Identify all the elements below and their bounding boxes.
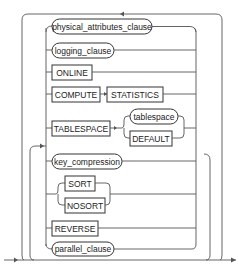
row-parallel-clause: parallel_clause [46,242,192,256]
syntax-diagram: physical_attributes_clause logging_claus… [0,0,239,270]
row-reverse: REVERSE [46,221,196,236]
parallel-clause-label: parallel_clause [55,244,112,254]
reverse-label: REVERSE [55,224,96,234]
physical-attributes-clause-label: physical_attributes_clause [52,22,152,32]
row-tablespace: TABLESPACE tablespace DEFAULT [46,109,196,146]
tablespace-keyword-label: TABLESPACE [54,124,109,134]
arrow-icon [114,126,117,130]
default-label: DEFAULT [132,134,170,144]
inner-loop-arrow-icon [40,144,44,149]
logging-clause-label: logging_clause [55,46,112,56]
sort-label: SORT [68,179,91,189]
row-key-compression: key_compression [46,154,196,169]
main-line [4,258,236,263]
row-logging-clause: logging_clause [46,43,196,58]
row-sort-nosort: SORT NOSORT [46,176,196,213]
tablespace-name-label: tablespace [133,112,174,122]
entry-arrow-icon [14,258,18,263]
row-compute-statistics: COMPUTE STATISTICS [46,87,196,102]
loop-arrow-icon [120,12,124,17]
key-compression-label: key_compression [54,157,120,167]
exit-arrow-icon [231,258,236,263]
nosort-label: NOSORT [67,201,103,211]
statistics-label: STATISTICS [111,90,159,100]
row-online: ONLINE [46,65,196,80]
compute-label: COMPUTE [55,90,98,100]
row-physical-attributes: physical_attributes_clause [46,19,196,34]
online-label: ONLINE [56,68,88,78]
